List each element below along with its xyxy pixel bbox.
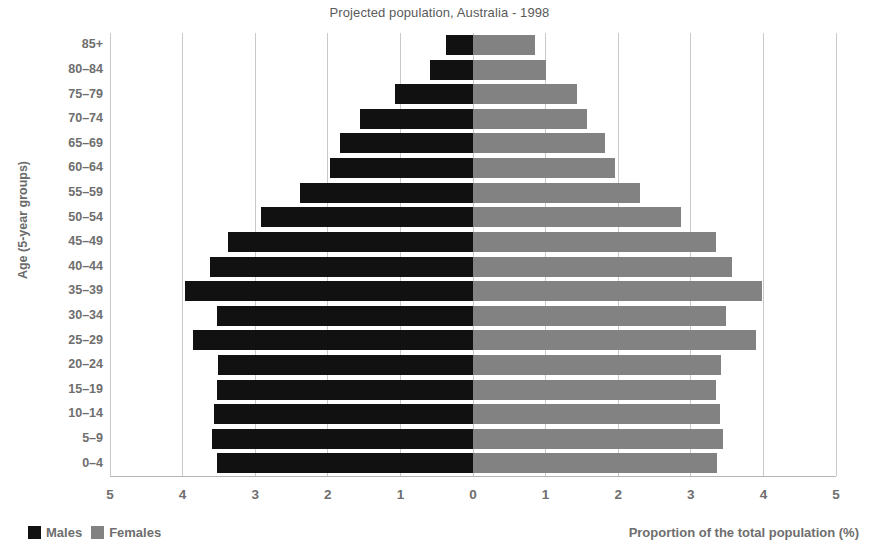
legend-label-females: Females bbox=[109, 525, 161, 540]
y-tick-label-75–79: 75–79 bbox=[13, 87, 103, 101]
y-tick-label-25–29: 25–29 bbox=[13, 333, 103, 347]
bar-females-20–24 bbox=[473, 355, 721, 375]
bar-row-30–34 bbox=[110, 304, 836, 329]
bar-females-70–74 bbox=[473, 109, 587, 129]
population-pyramid-chart: Projected population, Australia - 1998 A… bbox=[0, 0, 879, 555]
x-tick-label-5: 0 bbox=[453, 487, 493, 502]
y-tick-label-20–24: 20–24 bbox=[13, 357, 103, 371]
bar-row-15–19 bbox=[110, 378, 836, 403]
bar-females-25–29 bbox=[473, 330, 756, 350]
y-tick-label-70–74: 70–74 bbox=[13, 111, 103, 125]
bar-males-40–44 bbox=[210, 257, 473, 277]
bar-males-15–19 bbox=[217, 380, 473, 400]
x-tick-label-10: 5 bbox=[816, 487, 856, 502]
bar-males-30–34 bbox=[217, 306, 473, 326]
bar-males-60–64 bbox=[330, 158, 473, 178]
y-tick-label-0–4: 0–4 bbox=[13, 456, 103, 470]
bar-males-80–84 bbox=[430, 60, 473, 80]
bar-row-70–74 bbox=[110, 107, 836, 132]
x-tick-label-2: 3 bbox=[235, 487, 275, 502]
x-tick-label-3: 2 bbox=[308, 487, 348, 502]
bar-row-60–64 bbox=[110, 156, 836, 181]
y-tick-label-60–64: 60–64 bbox=[13, 160, 103, 174]
bar-males-20–24 bbox=[218, 355, 473, 375]
plot-area bbox=[110, 33, 836, 476]
x-tick-label-1: 4 bbox=[163, 487, 203, 502]
y-tick-label-85+: 85+ bbox=[13, 37, 103, 51]
y-tick-label-50–54: 50–54 bbox=[13, 210, 103, 224]
x-tick-label-0: 5 bbox=[90, 487, 130, 502]
bar-row-50–54 bbox=[110, 205, 836, 230]
bar-females-55–59 bbox=[473, 183, 640, 203]
legend-item-males: Males bbox=[28, 525, 82, 540]
legend-item-females: Females bbox=[91, 525, 161, 540]
x-axis-line bbox=[110, 476, 836, 477]
x-tick-label-8: 3 bbox=[671, 487, 711, 502]
y-tick-label-5–9: 5–9 bbox=[13, 431, 103, 445]
bar-row-5–9 bbox=[110, 427, 836, 452]
bar-females-65–69 bbox=[473, 133, 605, 153]
bar-row-80–84 bbox=[110, 58, 836, 83]
bar-females-40–44 bbox=[473, 257, 732, 277]
bar-row-45–49 bbox=[110, 230, 836, 255]
bar-females-30–34 bbox=[473, 306, 726, 326]
bar-row-20–24 bbox=[110, 353, 836, 378]
bar-females-75–79 bbox=[473, 84, 577, 104]
bar-males-55–59 bbox=[300, 183, 473, 203]
bar-males-70–74 bbox=[360, 109, 473, 129]
bar-row-40–44 bbox=[110, 255, 836, 280]
y-tick-label-80–84: 80–84 bbox=[13, 62, 103, 76]
bar-males-65–69 bbox=[340, 133, 473, 153]
bar-males-85+ bbox=[446, 35, 473, 55]
bar-females-10–14 bbox=[473, 404, 720, 424]
y-tick-label-15–19: 15–19 bbox=[13, 382, 103, 396]
bar-males-25–29 bbox=[193, 330, 473, 350]
y-tick-label-35–39: 35–39 bbox=[13, 283, 103, 297]
x-axis-tick-labels: 54321012345 bbox=[0, 487, 879, 507]
x-axis-title: Proportion of the total population (%) bbox=[629, 525, 859, 540]
bar-females-35–39 bbox=[473, 281, 762, 301]
x-tick-label-6: 1 bbox=[526, 487, 566, 502]
chart-legend: Males Females bbox=[28, 525, 161, 540]
y-tick-label-40–44: 40–44 bbox=[13, 259, 103, 273]
bar-row-0–4 bbox=[110, 451, 836, 476]
y-tick-label-10–14: 10–14 bbox=[13, 406, 103, 420]
x-tick-label-9: 4 bbox=[743, 487, 783, 502]
males-color-swatch bbox=[28, 526, 41, 539]
bar-males-75–79 bbox=[395, 84, 473, 104]
y-tick-label-30–34: 30–34 bbox=[13, 308, 103, 322]
bar-females-60–64 bbox=[473, 158, 615, 178]
bar-females-80–84 bbox=[473, 60, 546, 80]
chart-title: Projected population, Australia - 1998 bbox=[0, 5, 879, 20]
bar-row-65–69 bbox=[110, 131, 836, 156]
bar-males-0–4 bbox=[217, 453, 473, 473]
bar-females-45–49 bbox=[473, 232, 716, 252]
x-tick-label-7: 2 bbox=[598, 487, 638, 502]
y-axis-tick-labels: 85+80–8475–7970–7465–6960–6455–5950–5445… bbox=[0, 33, 103, 476]
y-tick-label-65–69: 65–69 bbox=[13, 136, 103, 150]
bar-males-50–54 bbox=[261, 207, 473, 227]
bar-females-5–9 bbox=[473, 429, 723, 449]
y-tick-label-45–49: 45–49 bbox=[13, 234, 103, 248]
bar-row-85+ bbox=[110, 33, 836, 58]
bar-females-15–19 bbox=[473, 380, 716, 400]
bar-row-55–59 bbox=[110, 181, 836, 206]
bar-females-0–4 bbox=[473, 453, 717, 473]
bar-males-45–49 bbox=[228, 232, 473, 252]
bar-row-75–79 bbox=[110, 82, 836, 107]
bar-males-35–39 bbox=[185, 281, 473, 301]
bar-row-10–14 bbox=[110, 402, 836, 427]
bar-males-10–14 bbox=[214, 404, 473, 424]
x-tick-label-4: 1 bbox=[380, 487, 420, 502]
legend-label-males: Males bbox=[46, 525, 82, 540]
bar-males-5–9 bbox=[212, 429, 473, 449]
bar-row-25–29 bbox=[110, 328, 836, 353]
bar-females-85+ bbox=[473, 35, 535, 55]
y-tick-label-55–59: 55–59 bbox=[13, 185, 103, 199]
bar-females-50–54 bbox=[473, 207, 681, 227]
females-color-swatch bbox=[91, 526, 104, 539]
bar-row-35–39 bbox=[110, 279, 836, 304]
